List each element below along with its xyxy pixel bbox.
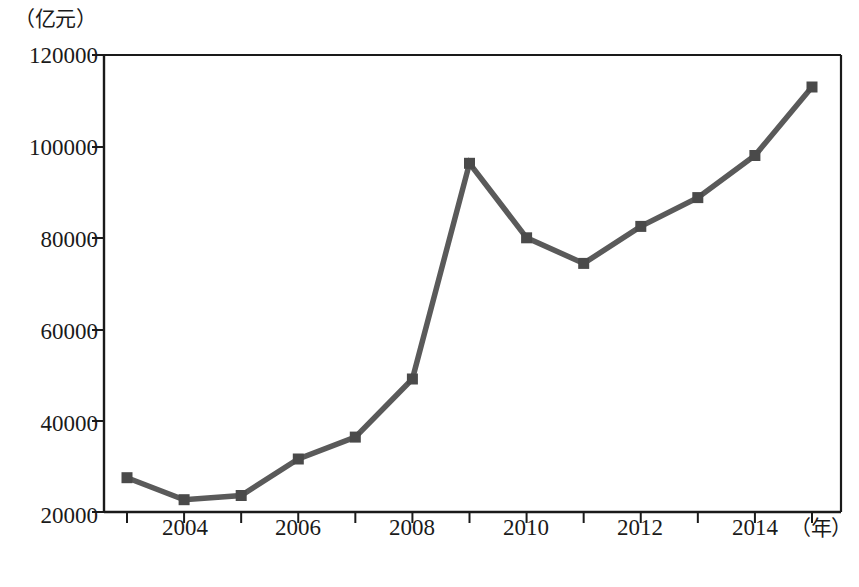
data-point-2010 xyxy=(521,232,532,243)
plot-area xyxy=(0,0,859,587)
data-point-2003 xyxy=(122,472,133,483)
data-point-2006 xyxy=(293,454,304,465)
data-point-2005 xyxy=(236,490,247,501)
data-series-markers xyxy=(122,82,818,506)
data-point-2015 xyxy=(807,82,818,93)
data-point-2007 xyxy=(350,432,361,443)
data-point-2009 xyxy=(464,158,475,169)
data-point-2012 xyxy=(635,221,646,232)
data-series-line xyxy=(127,87,812,500)
y-tick-marks xyxy=(92,55,104,512)
data-point-2008 xyxy=(407,374,418,385)
figure-caption xyxy=(0,574,859,587)
data-point-2011 xyxy=(578,258,589,269)
data-point-2013 xyxy=(692,192,703,203)
x-tick-marks xyxy=(127,512,812,523)
data-point-2004 xyxy=(179,494,190,505)
axis-frame xyxy=(104,55,841,512)
data-point-2014 xyxy=(749,150,760,161)
chart-figure: （亿元） （年） 120000 100000 80000 60000 40000… xyxy=(0,0,859,587)
